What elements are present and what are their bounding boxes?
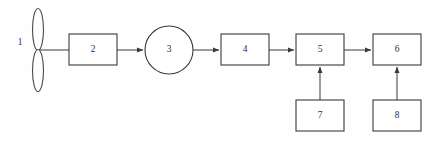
node-3-label: 3 bbox=[167, 44, 172, 54]
node-6-box: 6 bbox=[373, 34, 421, 65]
node-5-label: 5 bbox=[318, 44, 323, 54]
turbine-blade-upper-icon bbox=[33, 9, 44, 51]
node-2-box: 2 bbox=[69, 34, 117, 65]
node-4-label: 4 bbox=[243, 44, 248, 54]
node-6-label: 6 bbox=[395, 44, 400, 54]
node-7-box: 7 bbox=[296, 100, 344, 131]
node-8-label: 8 bbox=[395, 110, 400, 120]
node-1-wind-turbine: 1 bbox=[18, 9, 44, 92]
turbine-blade-lower-icon bbox=[33, 50, 44, 92]
node-4-box: 4 bbox=[221, 34, 269, 65]
diagram-canvas: 1 2 3 4 5 6 7 bbox=[0, 0, 438, 142]
node-8-box: 8 bbox=[373, 100, 421, 131]
block-diagram: 1 2 3 4 5 6 7 bbox=[0, 0, 438, 142]
node-5-box: 5 bbox=[296, 34, 344, 65]
node-7-label: 7 bbox=[318, 110, 323, 120]
node-2-label: 2 bbox=[91, 44, 96, 54]
node-3-circle: 3 bbox=[145, 26, 193, 74]
node-1-label: 1 bbox=[18, 37, 23, 47]
